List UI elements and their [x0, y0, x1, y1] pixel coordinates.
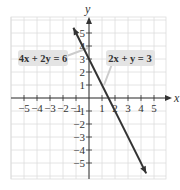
callout-left-text: 4x + 2y = 6 [19, 53, 68, 64]
x-tick-label: −4 [31, 102, 43, 114]
x-tick-label: 4 [138, 102, 144, 114]
x-tick-label: −3 [44, 102, 56, 114]
x-tick-label: 1 [99, 102, 105, 114]
y-tick-label: −2 [73, 118, 85, 130]
y-tick-label: 1 [80, 79, 86, 91]
y-tick-label: 3 [80, 53, 86, 65]
y-tick-label: −5 [73, 157, 85, 169]
x-tick-label: −5 [18, 102, 30, 114]
y-tick-label: −4 [73, 144, 85, 156]
y-tick-label: 5 [80, 27, 86, 39]
y-tick-label: 2 [80, 66, 86, 78]
x-tick-label: 5 [151, 102, 157, 114]
y-tick-label: −3 [73, 131, 85, 143]
x-tick-label: −2 [57, 102, 69, 114]
chart: xy −5−4−3−2−11234554321−1−2−3−4−5 4x + 2… [0, 0, 180, 190]
y-tick-label: −1 [73, 105, 85, 117]
callout-right-text: 2x + y = 3 [108, 53, 151, 64]
x-tick-label: 3 [125, 102, 131, 114]
y-axis-label: y [84, 2, 91, 16]
axes: xy [11, 2, 180, 179]
x-axis-label: x [173, 91, 180, 105]
